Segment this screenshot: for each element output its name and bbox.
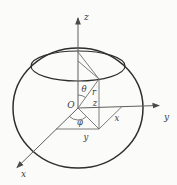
theta-label: θ: [81, 84, 86, 94]
coord-x-label: x: [115, 113, 120, 123]
latitude-radius-line: [78, 61, 99, 79]
y-axis-label: y: [163, 112, 170, 122]
x-axis: [17, 108, 78, 168]
z-axis-label: z: [83, 12, 89, 22]
diagram-canvas: z y x O θ r z φ x y: [0, 0, 177, 185]
spherical-coordinates-figure: z y x O θ r z φ x y: [0, 0, 177, 185]
chord-upper-line: [78, 52, 99, 79]
radius-label: r: [92, 87, 97, 97]
origin-label: O: [67, 100, 75, 110]
x-axis-label: x: [21, 169, 26, 179]
theta-angle-arc: [78, 95, 86, 98]
coord-z-label: z: [92, 98, 98, 108]
phi-label: φ: [77, 117, 83, 127]
y-axis: [78, 106, 159, 109]
coord-y-label: y: [83, 132, 89, 142]
